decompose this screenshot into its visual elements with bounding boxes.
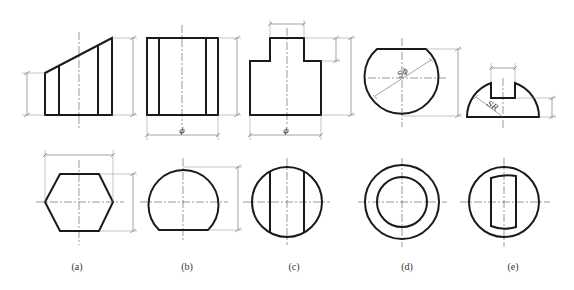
caption-a: (a)	[71, 261, 82, 273]
caption-e: (e)	[507, 261, 518, 273]
caption-c: (c)	[288, 261, 299, 273]
view-b-front: ϕ	[145, 25, 241, 140]
dim-label-d: Sϕ	[396, 66, 411, 80]
view-b-top	[140, 158, 242, 240]
dim-label-b: ϕ	[179, 126, 185, 135]
view-a-top	[36, 150, 137, 245]
dim-label-c: ϕ	[283, 126, 289, 135]
view-d-front: Sϕ	[365, 38, 463, 127]
view-a-front	[22, 32, 137, 128]
engineering-drawing: (a) ϕ (b)	[0, 0, 574, 290]
view-e-top	[460, 158, 550, 247]
view-c-front: ϕ	[248, 20, 355, 140]
caption-d: (d)	[401, 261, 413, 273]
caption-b: (b)	[181, 261, 193, 273]
view-d-top	[358, 158, 447, 247]
dim-label-e: SR	[485, 99, 500, 113]
view-c-top	[243, 158, 330, 245]
view-e-front: SR	[467, 63, 556, 128]
